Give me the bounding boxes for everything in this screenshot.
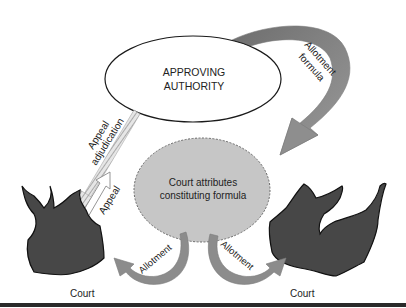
court-left-label: Court [70, 288, 95, 299]
diagram-canvas: Allotment formula APPROVING AUTHORITY Ap… [0, 0, 406, 308]
approving-authority-label-1: APPROVING [163, 66, 225, 78]
court-attributes-node: Court attributes constituting formula [134, 138, 270, 242]
court-right-label: Court [290, 288, 315, 299]
court-attributes-label-1: Court attributes [169, 177, 237, 188]
court-attributes-label-2: constituting formula [160, 190, 247, 201]
court-right-node: Court [269, 183, 386, 299]
approving-authority-node: APPROVING AUTHORITY [105, 36, 281, 122]
approving-authority-label-2: AUTHORITY [164, 80, 225, 92]
bottom-divider [0, 303, 406, 307]
allotment-left-label: Allotment [136, 241, 174, 275]
